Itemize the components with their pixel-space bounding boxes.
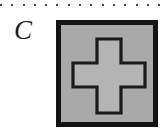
separator-dot [56,4,58,6]
separator-dot [45,4,47,6]
plus-shape-icon [61,25,153,122]
separator-dot [34,4,36,6]
panel-label: C [14,14,46,46]
separator-dot [147,4,149,6]
separator-dot [158,4,160,6]
figure-panel: C [0,0,167,138]
separator-dot [113,4,115,6]
dotted-separator-rule [0,2,167,7]
separator-dot [136,4,138,6]
separator-dot [90,4,92,6]
separator-dot [102,4,104,6]
separator-dot [68,4,70,6]
separator-dot [0,4,2,6]
cross-container [61,25,163,132]
separator-dot [124,4,126,6]
separator-dot [11,4,13,6]
gray-square [56,20,158,127]
separator-dot [79,4,81,6]
separator-dot [23,4,25,6]
